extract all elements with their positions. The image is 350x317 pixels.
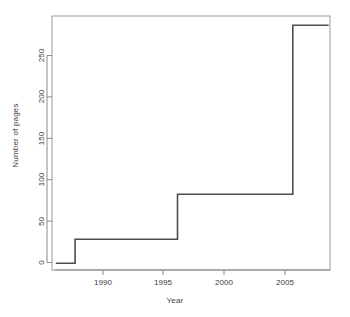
y-tick-label-200: 200 (37, 84, 46, 110)
x-tick-label-2005: 2005 (268, 278, 302, 287)
y-axis-title: Number of pages (11, 103, 20, 167)
x-tick-label-2000: 2000 (207, 278, 241, 287)
y-tick-label-150: 150 (37, 126, 46, 152)
y-tick-label-0: 0 (37, 250, 46, 276)
y-tick-label-250: 250 (37, 43, 46, 69)
step-plot-canvas (0, 0, 350, 317)
x-axis-title: Year (0, 296, 350, 305)
y-tick-label-50: 50 (37, 209, 46, 235)
x-tick-label-1995: 1995 (146, 278, 180, 287)
chart-figure: 0 50 100 150 200 250 1990 1995 2000 2005… (0, 0, 350, 317)
x-tick-label-1990: 1990 (86, 278, 120, 287)
y-tick-label-100: 100 (37, 167, 46, 193)
y-axis-title-wrap: Number of pages (0, 0, 30, 270)
